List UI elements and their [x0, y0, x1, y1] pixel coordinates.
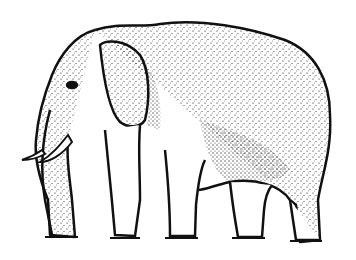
ground-lines	[45, 237, 322, 241]
elephant-illusion-image: Impossible elephant optical illusion	[0, 0, 356, 260]
